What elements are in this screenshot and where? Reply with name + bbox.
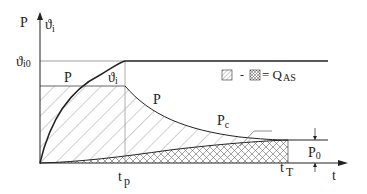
power-level-label: P <box>64 70 72 85</box>
tp-label: tp <box>118 169 130 188</box>
x-label: t <box>332 168 336 183</box>
y-axis-arrow-icon <box>37 12 43 20</box>
legend-cross-swatch-icon <box>250 70 260 80</box>
temp-max-label: ϑi0 <box>16 54 31 69</box>
legend-result: = QAS <box>262 67 296 83</box>
temp-curve-label: ϑi <box>108 70 118 86</box>
p0-arrow-down-icon <box>313 136 317 140</box>
cooling-curve-label: Pc <box>217 113 230 130</box>
p0-arrow-up-icon <box>313 163 317 167</box>
legend-minus: - <box>240 68 244 82</box>
y-label-power: P <box>20 15 28 30</box>
legend: - = QAS <box>222 67 296 83</box>
p0-label: P0 <box>308 145 321 161</box>
power-temperature-diagram: P ϑi ϑi0 P ϑi P Pc tp tT t P0 - = QAS <box>0 0 367 194</box>
power-curve-label: P <box>153 92 161 107</box>
legend-hatch-swatch-icon <box>222 70 232 80</box>
x-axis-arrow-icon <box>338 160 348 166</box>
y-label-temp: ϑi <box>45 17 55 34</box>
